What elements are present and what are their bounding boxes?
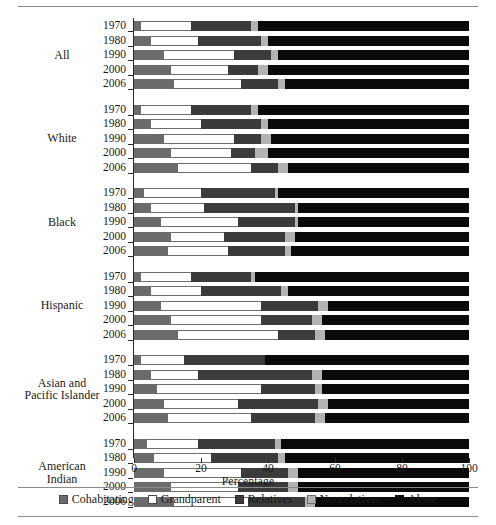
y-axis-tick [128,60,133,61]
group-label: Black [8,216,116,229]
year-label: 1980 [72,202,126,214]
bar-segment-cohab [134,301,161,311]
bar-segment-grand [151,203,205,213]
bar-segment-alone [328,301,469,311]
table-row [134,439,469,449]
bar-segment-rel [191,21,251,31]
table-row [134,36,469,46]
table-row [134,119,469,129]
y-axis-tick [128,340,133,341]
y-axis-tick [128,256,133,257]
bar-segment-rel [184,355,264,365]
year-label: 2000 [72,314,126,326]
y-axis-tick [128,409,133,410]
bar-segment-alone [288,286,469,296]
table-row [134,246,469,256]
bar-segment-alone [268,119,469,129]
chart-legend: CohabitatingGrandparentRelativesNonrelat… [0,492,496,507]
legend-item-grand: Grandparent [148,492,221,507]
legend-item-alone: Alone [395,492,437,507]
bar-segment-grand [141,272,191,282]
bar-segment-grand [151,286,201,296]
bar-segment-nonrel [315,330,325,340]
legend-label: Grandparent [161,492,221,507]
bar-segment-rel [241,79,278,89]
legend-label: Relatives [248,492,293,507]
y-axis-tick [128,198,133,199]
bar-segment-rel [278,330,315,340]
bar-segment-nonrel [278,79,285,89]
bar-segment-cohab [134,413,168,423]
x-axis-tick-label: 0 [114,462,154,474]
bar-segment-rel [238,217,295,227]
bar-segment-nonrel [285,246,292,256]
bar-segment-cohab [134,119,151,129]
year-label: 1980 [72,35,126,47]
bar-segment-alone [271,134,469,144]
bar-segment-alone [265,355,469,365]
table-row [134,370,469,380]
x-axis-tick-label: 20 [181,462,221,474]
bar-segment-nonrel [275,439,282,449]
bar-segment-alone [298,217,469,227]
year-label: 1970 [72,354,126,366]
table-row [134,163,469,173]
bar-segment-nonrel [251,105,258,115]
year-label: 1970 [72,104,126,116]
bar-segment-rel [228,65,258,75]
bar-segment-rel [198,370,312,380]
y-axis-tick [128,394,133,395]
year-label: 2006 [72,412,126,424]
bar-segment-grand [144,188,201,198]
group-label: Asian andPacific Islander [8,377,116,402]
bar-segment-grand [171,65,228,75]
bar-segment-nonrel [281,286,288,296]
year-label: 1980 [72,118,126,130]
bar-segment-grand [161,301,262,311]
y-axis-tick [128,227,133,228]
year-label: 2006 [72,329,126,341]
bar-segment-rel [251,413,315,423]
year-label: 2000 [72,147,126,159]
table-row [134,232,469,242]
bar-segment-nonrel [318,301,328,311]
legend-swatch-grand-icon [148,495,157,504]
bar-segment-rel [198,439,275,449]
bar-segment-grand [141,355,185,365]
bar-segment-grand [174,79,241,89]
bar-segment-grand [171,148,231,158]
legend-item-cohab: Cohabitating [59,492,134,507]
year-label: 2000 [72,231,126,243]
bar-segment-cohab [134,79,174,89]
bar-segment-grand [164,134,234,144]
bar-segment-alone [285,79,469,89]
y-axis-tick [128,158,133,159]
bar-segment-rel [238,399,318,409]
bar-segment-rel [204,203,294,213]
bar-segment-cohab [134,232,171,242]
table-row [134,105,469,115]
bar-segment-cohab [134,286,151,296]
bar-segment-grand [171,232,225,242]
bar-segment-grand [171,315,261,325]
y-axis-tick [128,115,133,116]
bar-segment-cohab [134,148,171,158]
y-axis-tick [128,325,133,326]
bar-segment-alone [288,163,469,173]
year-label: 2006 [72,245,126,257]
bar-segment-nonrel [318,399,328,409]
bar-segment-alone [268,148,469,158]
bar-segment-nonrel [271,50,278,60]
y-axis-tick [128,296,133,297]
bar-segment-cohab [134,399,164,409]
bar-segment-alone [258,105,469,115]
legend-label: Alone [408,492,437,507]
table-row [134,21,469,31]
legend-swatch-cohab-icon [59,495,68,504]
legend-item-nonrel: Nonrelatives [307,492,381,507]
bar-segment-grand [178,330,279,340]
table-row [134,355,469,365]
bar-segment-nonrel [261,36,268,46]
x-axis-title: Percentage [0,475,496,487]
table-row [134,148,469,158]
